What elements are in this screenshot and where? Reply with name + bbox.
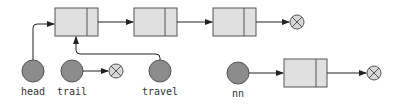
null-icon xyxy=(367,66,381,80)
nn-label: nn xyxy=(232,88,244,99)
travel-label: travel xyxy=(142,86,178,97)
head-pointer-link xyxy=(33,24,54,60)
trail-pointer xyxy=(61,60,83,82)
travel-pointer-link xyxy=(76,37,160,60)
list-node-3 xyxy=(213,8,256,36)
trail-label: trail xyxy=(57,86,87,97)
travel-pointer xyxy=(149,60,171,82)
head-label: head xyxy=(21,86,45,97)
list-node-2 xyxy=(134,8,177,36)
new-list-node xyxy=(284,59,327,87)
list-node-1 xyxy=(55,8,98,36)
head-pointer xyxy=(22,60,44,82)
linked-list-diagram: head trail travel nn xyxy=(0,0,397,107)
nn-pointer xyxy=(227,62,249,84)
null-icon xyxy=(109,64,123,78)
null-icon xyxy=(290,15,304,29)
